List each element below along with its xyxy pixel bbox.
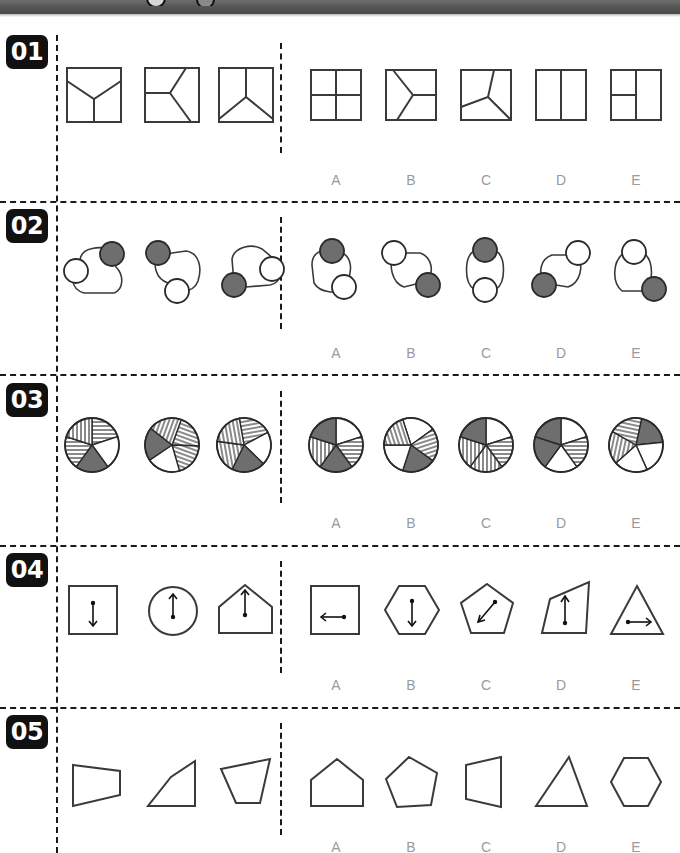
row-separator-01 bbox=[0, 201, 680, 203]
option-label-01-e: E bbox=[616, 172, 656, 188]
option-03-e[interactable] bbox=[608, 417, 664, 473]
option-04-d[interactable] bbox=[534, 579, 592, 637]
option-03-c[interactable] bbox=[458, 417, 514, 473]
option-04-b[interactable] bbox=[382, 583, 442, 637]
option-label-04-e: E bbox=[616, 677, 656, 693]
option-label-02-e: E bbox=[616, 345, 656, 361]
option-05-b[interactable] bbox=[383, 753, 441, 811]
option-label-02-a: A bbox=[316, 345, 356, 361]
option-05-a[interactable] bbox=[308, 755, 366, 811]
option-01-a[interactable] bbox=[310, 69, 362, 121]
option-label-03-e: E bbox=[616, 515, 656, 531]
question-number-badge-05: 05 bbox=[6, 715, 48, 749]
stem-04-3 bbox=[216, 583, 274, 637]
option-label-02-b: B bbox=[391, 345, 431, 361]
option-02-e[interactable] bbox=[604, 239, 666, 307]
scan-blob-icon-2 bbox=[196, 0, 215, 6]
stem-02-2 bbox=[140, 239, 210, 305]
option-01-e[interactable] bbox=[610, 69, 662, 121]
row-separator-04 bbox=[0, 707, 680, 709]
option-01-c[interactable] bbox=[460, 69, 512, 121]
stem-02-1 bbox=[62, 239, 132, 305]
row-separator-02 bbox=[0, 374, 680, 376]
option-04-c[interactable] bbox=[458, 581, 516, 637]
option-label-03-a: A bbox=[316, 515, 356, 531]
option-02-a[interactable] bbox=[302, 239, 364, 305]
option-04-a[interactable] bbox=[310, 585, 360, 637]
option-label-05-c: C bbox=[466, 839, 506, 853]
option-label-03-c: C bbox=[466, 515, 506, 531]
option-02-d[interactable] bbox=[528, 239, 594, 305]
option-02-c[interactable] bbox=[458, 237, 512, 305]
option-label-05-e: E bbox=[616, 839, 656, 853]
scan-blob-icon-1 bbox=[146, 0, 166, 6]
row-divider-03 bbox=[280, 391, 282, 503]
option-label-03-d: D bbox=[541, 515, 581, 531]
option-04-e[interactable] bbox=[608, 583, 666, 637]
stem-05-1 bbox=[70, 755, 126, 811]
option-01-d[interactable] bbox=[535, 69, 587, 121]
stem-04-2 bbox=[147, 585, 199, 637]
question-number-badge-02: 02 bbox=[6, 209, 48, 243]
option-label-02-d: D bbox=[541, 345, 581, 361]
option-03-d[interactable] bbox=[533, 417, 589, 473]
worksheet: 01 bbox=[0, 17, 680, 853]
option-label-04-d: D bbox=[541, 677, 581, 693]
stem-01-2 bbox=[144, 67, 200, 123]
option-label-05-d: D bbox=[541, 839, 581, 853]
option-05-e[interactable] bbox=[608, 755, 664, 809]
option-label-02-c: C bbox=[466, 345, 506, 361]
left-dashed-rail bbox=[56, 35, 58, 853]
option-05-d[interactable] bbox=[533, 753, 591, 811]
row-divider-01 bbox=[280, 43, 282, 153]
row-divider-04 bbox=[280, 561, 282, 673]
stem-05-2 bbox=[145, 755, 201, 811]
option-03-b[interactable] bbox=[383, 417, 439, 473]
option-label-01-b: B bbox=[391, 172, 431, 188]
stem-03-1 bbox=[64, 417, 120, 473]
option-label-04-c: C bbox=[466, 677, 506, 693]
stem-04-1 bbox=[68, 585, 118, 637]
option-05-c[interactable] bbox=[463, 753, 509, 811]
option-label-03-b: B bbox=[391, 515, 431, 531]
option-label-01-d: D bbox=[541, 172, 581, 188]
question-number-badge-04: 04 bbox=[6, 553, 48, 587]
scan-top-bar bbox=[0, 0, 680, 14]
stem-03-2 bbox=[144, 417, 200, 473]
option-03-a[interactable] bbox=[308, 417, 364, 473]
row-divider-05 bbox=[280, 723, 282, 835]
option-label-04-b: B bbox=[391, 677, 431, 693]
option-label-04-a: A bbox=[316, 677, 356, 693]
question-number-badge-03: 03 bbox=[6, 383, 48, 417]
option-02-b[interactable] bbox=[378, 239, 444, 305]
scan-artifact-icons bbox=[140, 0, 220, 6]
stem-02-3 bbox=[216, 239, 288, 305]
stem-03-3 bbox=[216, 417, 272, 473]
option-label-01-a: A bbox=[316, 172, 356, 188]
option-01-b[interactable] bbox=[385, 69, 437, 121]
option-label-05-a: A bbox=[316, 839, 356, 853]
row-separator-03 bbox=[0, 545, 680, 547]
stem-05-3 bbox=[218, 753, 274, 809]
option-label-01-c: C bbox=[466, 172, 506, 188]
stem-01-3 bbox=[218, 67, 274, 123]
option-label-05-b: B bbox=[391, 839, 431, 853]
stem-01-1 bbox=[66, 67, 122, 123]
question-number-badge-01: 01 bbox=[6, 35, 48, 69]
